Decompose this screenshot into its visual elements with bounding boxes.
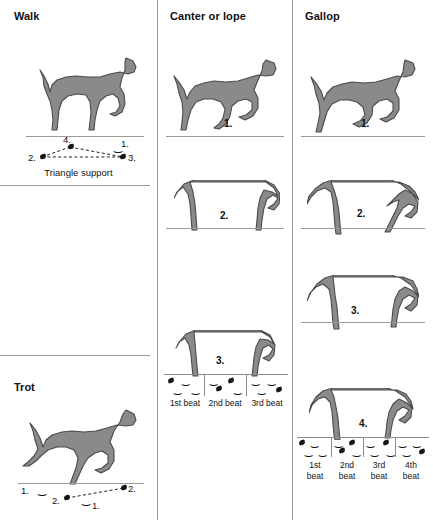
beat-label-gallop-4-line2: beat <box>395 471 427 481</box>
hoofprint-open-mark: ‿ <box>371 448 378 457</box>
beat-label-gallop-3-line2: beat <box>363 471 395 481</box>
hoofprint-open-mark: ‿ <box>305 448 312 457</box>
ground-line-gallop-1 <box>301 136 425 137</box>
frame-label-canter-2: 2. <box>220 210 228 221</box>
beat-label-gallop-3-line1: 3rd <box>363 460 395 470</box>
hoofprint-open-mark: ‿ <box>335 439 342 448</box>
beat-divider <box>331 437 332 457</box>
beat-label-canter-2: 2nd beat <box>202 398 248 408</box>
horse-canter-frame-3 <box>174 330 280 378</box>
beat-divider <box>395 437 396 457</box>
support-pattern-walk: ‿ 4. 2. 3. 1. <box>26 140 144 166</box>
hoofprint-open-mark: ‿ <box>387 448 394 457</box>
beat-strip-canter: ‿ ‿ ‿ ‿ ‿ ‿ ‿ ‿ 1st beat 2nd beat 3rd be… <box>164 374 288 416</box>
hoofprint-open-mark: ‿ <box>174 386 181 395</box>
beat-divider <box>246 374 247 396</box>
column-canter: Canter or lope 1. 2. 3. <box>157 0 292 520</box>
hoofprint-open-mark: ‿ <box>268 377 275 386</box>
hoofprint-mark <box>215 385 222 391</box>
beat-divider <box>204 374 205 396</box>
support-number-4: 4. <box>63 134 71 145</box>
hoofprint-open-mark: ‿ <box>413 439 420 448</box>
beat-label-gallop-2-line2: beat <box>331 471 363 481</box>
hoofprint-open-mark: ‿ <box>192 386 199 395</box>
panel-title-walk: Walk <box>14 10 39 22</box>
beat-label-canter-3: 3rd beat <box>244 398 290 408</box>
horse-gallop-frame-4 <box>309 388 419 440</box>
support-number-1: 1. <box>121 138 129 149</box>
ground-line-canter-1 <box>166 136 284 137</box>
hoofprint-mark <box>418 448 425 454</box>
hoofprint-open-mark: ‿ <box>353 448 360 457</box>
beat-baseline <box>164 374 288 375</box>
panel-trot: Trot ‿ ‿ 1. 2. 2. 1. Diagonal <box>0 185 157 355</box>
beat-label-gallop-4-line1: 4th <box>395 460 427 470</box>
ground-line-walk <box>26 136 144 137</box>
ground-line-canter-2 <box>166 228 284 229</box>
frame-label-gallop-1: 1. <box>361 118 369 129</box>
hoofprint-mark <box>275 386 282 392</box>
beat-strip-gallop: ‿ ‿ ‿ ‿ ‿ ‿ ‿ ‿ ‿ ‿ ‿ 1st beat 2nd beat … <box>297 437 429 487</box>
horse-canter-frame-2 <box>174 180 280 232</box>
hoofprint-mark <box>227 377 234 383</box>
column-walk-trot-pace: Walk ‿ 4. 2. 3. 1. <box>0 0 157 520</box>
panel-walk: Walk ‿ 4. 2. 3. 1. <box>0 0 157 185</box>
gaits-figure: Walk ‿ 4. 2. 3. 1. <box>0 0 433 520</box>
support-number-3: 3. <box>128 152 136 163</box>
hoofprint-mark <box>382 439 389 445</box>
frame-label-gallop-4: 4. <box>359 418 367 429</box>
hoofprint-open-mark: ‿ <box>258 386 265 395</box>
hoofprint-open-mark: ‿ <box>311 439 318 448</box>
hoofprint-open-mark: ‿ <box>403 448 410 457</box>
hoofprint-open-mark: ‿ <box>182 377 189 386</box>
column-title-canter: Canter or lope <box>170 10 246 22</box>
beat-divider <box>363 437 364 457</box>
beat-label-gallop-2-line1: 2nd <box>331 460 363 470</box>
hoofprint-open-mark: ‿ <box>210 377 217 386</box>
hoofprint-mark <box>348 439 355 445</box>
hoofprint-open-mark: ‿ <box>319 448 326 457</box>
frame-label-canter-1: 1. <box>224 118 232 129</box>
hoofprint-mark <box>338 447 345 453</box>
beat-label-gallop-1-line2: beat <box>299 471 331 481</box>
ground-line-gallop-3 <box>301 322 425 323</box>
column-title-gallop: Gallop <box>305 10 340 22</box>
support-number-2: 2. <box>28 152 36 163</box>
hoofprint-mark <box>298 439 305 445</box>
caption-walk: Triangle support <box>0 167 157 178</box>
hoofprint-mark <box>167 377 174 383</box>
column-gallop: Gallop 1. 2. 3. <box>292 0 433 520</box>
beat-label-gallop-1-line1: 1st <box>299 460 331 470</box>
panel-pace: Pace ‿ ‿ 1. 2. 1. 2. Lateral l <box>0 355 157 520</box>
frame-label-gallop-2: 2. <box>357 208 365 219</box>
hoofprint-open-mark: ‿ <box>234 386 241 395</box>
frame-label-canter-3: 3. <box>216 355 224 366</box>
ground-line-gallop-2 <box>301 228 425 229</box>
frame-label-gallop-3: 3. <box>351 305 359 316</box>
horse-walk <box>30 44 140 136</box>
